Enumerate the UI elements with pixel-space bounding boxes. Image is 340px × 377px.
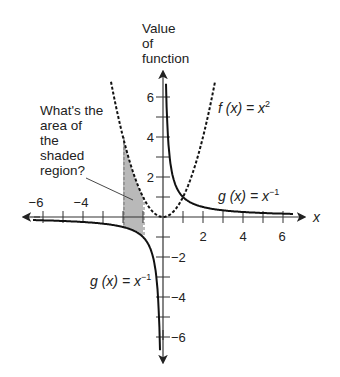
- function-graph-figure: −6 −4 2 4 6 6 4 2 −2 −4 −6 x Value of fu…: [0, 0, 340, 377]
- x-tick-label: 2: [199, 229, 206, 244]
- question-annotation-line: shaded: [40, 148, 84, 163]
- x-tick-label: 4: [239, 229, 246, 244]
- y-tick-label: 2: [147, 170, 154, 185]
- x-tick-label: −6: [29, 195, 44, 210]
- x-tick-label: 6: [278, 229, 285, 244]
- g-lower-label-main: g (x) = x: [90, 273, 142, 289]
- f-label-main: f (x) = x: [218, 100, 266, 116]
- y-axis-label-line: function: [142, 51, 189, 66]
- graph-svg: −6 −4 2 4 6 6 4 2 −2 −4 −6 x Value of fu…: [0, 0, 340, 377]
- g-upper-label-exponent: −1: [269, 187, 279, 197]
- f-label-exponent: 2: [265, 99, 270, 109]
- y-tick-label: −6: [171, 330, 186, 345]
- question-annotation-line: area of: [40, 118, 82, 133]
- x-axis-label: x: [312, 209, 321, 225]
- x-tick-label: −4: [74, 195, 89, 210]
- y-axis-label-line: Value: [142, 21, 176, 36]
- question-annotation-line: the: [40, 133, 59, 148]
- g-upper-label-main: g (x) = x: [218, 188, 270, 204]
- question-annotation-line: What's the: [40, 103, 103, 118]
- g-function-label-upper: g (x) = x−1: [218, 187, 279, 204]
- y-tick-label: −4: [171, 290, 186, 305]
- f-function-label: f (x) = x2: [218, 99, 270, 116]
- g-function-label-lower: g (x) = x−1: [90, 272, 151, 289]
- y-tick-label: 4: [147, 130, 154, 145]
- g-lower-label-exponent: −1: [141, 272, 151, 282]
- question-annotation-line: region?: [40, 163, 85, 178]
- y-tick-label: −2: [171, 250, 186, 265]
- y-axis-label-line: of: [142, 36, 154, 51]
- y-tick-label: 6: [147, 90, 154, 105]
